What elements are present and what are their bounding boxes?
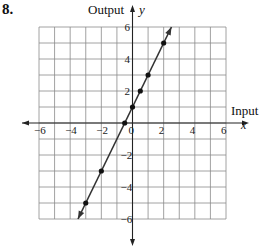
x-tick-label: 4	[190, 124, 196, 136]
x-tick-label: −6	[34, 124, 46, 136]
x-axis-word-label: Input	[231, 103, 259, 118]
data-point	[161, 40, 166, 45]
y-tick-label: 6	[125, 21, 131, 33]
line-start-arrow-icon	[78, 210, 84, 219]
y-axis-up-arrow-icon	[130, 5, 135, 12]
y-axis-down-arrow-icon	[130, 239, 135, 246]
y-axis-word-label: Output	[88, 2, 125, 17]
data-point	[122, 120, 127, 125]
y-tick-label: −2	[121, 149, 133, 161]
x-tick-label: 0	[129, 124, 135, 136]
data-point	[145, 72, 150, 77]
x-axis-left-arrow-icon	[22, 121, 29, 126]
data-point	[130, 104, 135, 109]
data-point	[99, 168, 104, 173]
x-tick-label: 2	[159, 124, 165, 136]
x-tick-label: −2	[96, 124, 108, 136]
y-axis-variable-label: y	[137, 2, 145, 17]
y-tick-label: −6	[121, 213, 133, 225]
x-tick-label: −4	[65, 124, 77, 136]
axes	[22, 5, 249, 246]
coordinate-graph: −6−4−20246642−2−4−6 Output y Input x	[0, 0, 271, 252]
y-tick-label: 4	[125, 53, 131, 65]
line-end-arrow-icon	[165, 27, 171, 36]
data-point	[83, 200, 88, 205]
y-tick-label: 2	[125, 85, 131, 97]
data-point	[138, 88, 143, 93]
x-axis-variable-label: x	[240, 118, 247, 132]
y-tick-label: −4	[121, 181, 133, 193]
x-tick-label: 6	[221, 124, 227, 136]
